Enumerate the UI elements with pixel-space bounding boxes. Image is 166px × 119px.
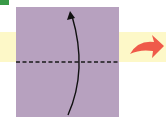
fold-diagram bbox=[0, 0, 166, 119]
next-step-arrow-icon bbox=[130, 35, 164, 58]
